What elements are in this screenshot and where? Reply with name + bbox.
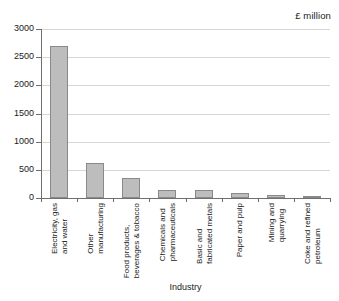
bar[interactable] xyxy=(231,193,249,198)
y-axis-tick xyxy=(36,114,41,115)
x-axis-label: Paper and pulp xyxy=(222,203,258,275)
y-axis-tick xyxy=(36,85,41,86)
x-axis-tick xyxy=(149,198,150,202)
y-axis-tick xyxy=(36,57,41,58)
y-axis-tick-label: 3000 xyxy=(14,24,34,33)
x-axis-tick xyxy=(222,198,223,202)
bar[interactable] xyxy=(303,196,321,198)
bar-slot xyxy=(77,29,113,198)
bar-slot xyxy=(294,29,330,198)
x-axis-label: Food products,beverages & tobacco xyxy=(113,203,149,275)
bar[interactable] xyxy=(86,163,104,198)
bar-slot xyxy=(149,29,185,198)
y-axis-tick-label: 500 xyxy=(19,165,34,174)
y-axis-tick xyxy=(36,142,41,143)
y-axis-tick-label: 2500 xyxy=(14,52,34,61)
x-axis-label: Basic andfabricated metals xyxy=(186,203,222,275)
x-axis-label: Mining andquarrying xyxy=(258,203,294,275)
y-axis-tick xyxy=(36,170,41,171)
bar-slot xyxy=(186,29,222,198)
y-axis-tick xyxy=(36,29,41,30)
bar[interactable] xyxy=(50,46,68,198)
bar-slot xyxy=(222,29,258,198)
x-axis-title: Industry xyxy=(41,282,330,292)
x-axis-labels: Electricity, gasand waterOthermanufactur… xyxy=(41,203,330,275)
units-label: £ million xyxy=(295,10,331,21)
bar-slot xyxy=(41,29,77,198)
x-axis-tick xyxy=(186,198,187,202)
y-axis-tick-label: 1000 xyxy=(14,137,34,146)
bar[interactable] xyxy=(122,178,140,198)
x-axis-tick xyxy=(330,198,331,202)
x-axis-tick xyxy=(258,198,259,202)
y-axis-tick xyxy=(36,198,41,199)
x-axis-label: Coke and refinedpetroleum xyxy=(294,203,330,275)
bar-slot xyxy=(258,29,294,198)
y-axis-labels: 050010001500200025003000 xyxy=(0,0,34,301)
bar-slot xyxy=(113,29,149,198)
x-axis-label: Electricity, gasand water xyxy=(41,203,77,275)
y-axis-tick-label: 2000 xyxy=(14,80,34,89)
bar-chart: £ million 050010001500200025003000 Elect… xyxy=(0,0,339,301)
x-axis-tick xyxy=(113,198,114,202)
x-axis-tick xyxy=(294,198,295,202)
bar[interactable] xyxy=(267,195,285,198)
y-axis-tick-label: 0 xyxy=(29,193,34,202)
bar[interactable] xyxy=(195,190,213,198)
bar-series xyxy=(41,29,330,198)
bar[interactable] xyxy=(158,190,176,198)
x-axis-label: Othermanufacturing xyxy=(77,203,113,275)
x-axis-label: Chemicals andpharmaceuticals xyxy=(149,203,185,275)
x-axis-tick xyxy=(77,198,78,202)
y-axis-tick-label: 1500 xyxy=(14,109,34,118)
x-axis-tick xyxy=(41,198,42,202)
